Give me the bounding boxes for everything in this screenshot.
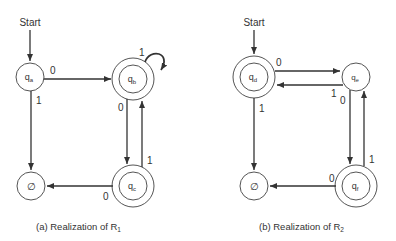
caption-a: (a) Realization of R1 — [36, 221, 121, 233]
edge-label-qf-qe: 1 — [369, 154, 375, 165]
svg-text:qb: qb — [128, 74, 137, 85]
edge-label-qa-empty: 1 — [36, 95, 42, 106]
edge-label-qd-empty: 1 — [259, 103, 265, 114]
svg-text:∅: ∅ — [250, 181, 259, 192]
state-qc: qc — [112, 165, 154, 207]
state-empty-b: ∅ — [240, 172, 268, 200]
state-qd: qd — [233, 56, 275, 98]
edge-label-qe-qd: 1 — [331, 88, 337, 99]
svg-text:qa: qa — [25, 72, 34, 83]
caption-b: (b) Realization of R2 — [259, 221, 344, 233]
diagram-b: Start qd qe qf ∅ 0 1 1 — [233, 17, 377, 233]
state-qa: qa — [16, 63, 44, 91]
edge-qb-self — [145, 54, 164, 70]
diagram-a: Start qa qb qc ∅ 0 1 1 — [16, 17, 164, 233]
edge-label-qf-empty: 0 — [329, 173, 335, 184]
edge-label-qb-qc: 0 — [118, 102, 124, 113]
edge-label-qc-qb: 1 — [147, 155, 153, 166]
start-label-a: Start — [19, 17, 40, 28]
edge-label-qb-self: 1 — [139, 47, 145, 58]
fsm-diagrams: Start qa qb qc ∅ 0 1 1 — [0, 0, 396, 241]
edge-label-qe-qf: 0 — [340, 95, 346, 106]
svg-text:qe: qe — [351, 73, 359, 83]
edge-label-qd-qe: 0 — [276, 57, 282, 68]
state-qf: qf — [335, 165, 377, 207]
state-qe: qe — [342, 63, 370, 91]
state-qb: qb — [112, 58, 154, 100]
svg-text:∅: ∅ — [27, 181, 36, 192]
svg-text:qf: qf — [352, 181, 359, 192]
svg-text:qc: qc — [128, 181, 136, 192]
start-label-b: Start — [243, 17, 264, 28]
state-empty-a: ∅ — [17, 172, 45, 200]
svg-text:qd: qd — [249, 72, 257, 83]
edge-label-qa-qb: 0 — [50, 65, 56, 76]
edge-label-qc-empty: 0 — [103, 191, 109, 202]
